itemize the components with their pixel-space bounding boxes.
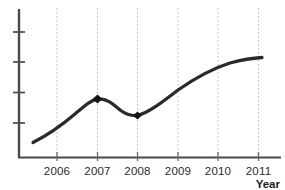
x-tick-label-2011: 2011 <box>246 165 272 177</box>
x-tick-label-2006: 2006 <box>44 165 70 177</box>
line-chart: 2006 2007 2008 2009 2010 2011 Year <box>0 0 285 190</box>
gridlines <box>57 8 259 157</box>
x-tick-label-2007: 2007 <box>84 165 110 177</box>
chart-screenshot: 2006 2007 2008 2009 2010 2011 Year <box>0 0 285 190</box>
x-tick-label-2009: 2009 <box>165 165 191 177</box>
x-axis-title: Year <box>256 178 281 190</box>
x-tick-label-2008: 2008 <box>124 165 150 177</box>
x-tick-label-2010: 2010 <box>205 165 231 177</box>
data-marker-2007 <box>93 95 103 104</box>
x-tick-labels: 2006 2007 2008 2009 2010 2011 <box>44 165 271 177</box>
data-line-series <box>33 58 262 143</box>
